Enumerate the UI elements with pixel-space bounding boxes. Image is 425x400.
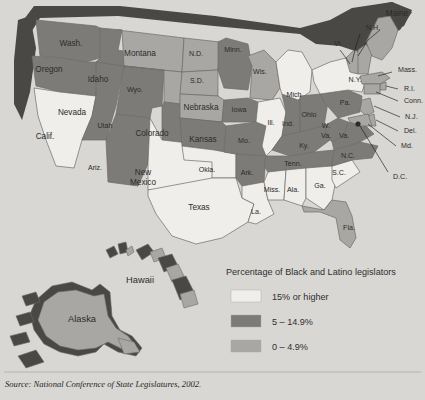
- legend-label-low: 0 – 4.9%: [272, 342, 308, 352]
- state-district-of-columbia: [355, 121, 360, 126]
- state-washington: [36, 20, 104, 62]
- us-choropleth-map: Wash.OregonCalif.NevadaIdahoMontanaWyo.U…: [0, 0, 425, 400]
- state-iowa: [222, 98, 258, 122]
- legend-label-mid: 5 – 14.9%: [272, 317, 313, 327]
- state-nebraska: [180, 94, 224, 122]
- state-south-dakota: [180, 70, 218, 96]
- legend-swatch-low: [231, 340, 261, 352]
- state-mississippi: [264, 170, 286, 200]
- state-arkansas: [236, 154, 266, 186]
- legend-label-high: 15% or higher: [272, 292, 329, 302]
- legend-swatch-mid: [231, 315, 261, 327]
- map-figure: Wash.OregonCalif.NevadaIdahoMontanaWyo.U…: [0, 0, 425, 400]
- state-alabama: [284, 168, 306, 206]
- legend-title: Percentage of Black and Latino legislato…: [226, 267, 396, 277]
- state-north-dakota: [182, 38, 220, 72]
- legend-swatch-high: [231, 290, 261, 302]
- state-missouri: [224, 122, 266, 156]
- source-note: Source: National Conference of State Leg…: [5, 379, 201, 389]
- state-minnesota: [218, 38, 252, 90]
